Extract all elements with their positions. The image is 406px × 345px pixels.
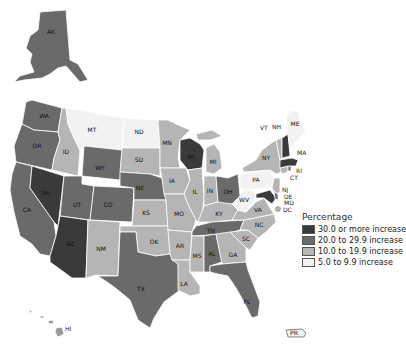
state-SD: SD <box>120 148 160 176</box>
svg-text:ME: ME <box>291 120 300 127</box>
state-DE: DE <box>274 192 293 200</box>
svg-text:GA: GA <box>229 251 239 258</box>
territory-PR: PR <box>286 329 306 337</box>
svg-text:FL: FL <box>244 298 251 305</box>
legend-swatch <box>302 225 315 234</box>
svg-text:MD: MD <box>284 199 294 206</box>
state-IN: IN <box>204 176 218 206</box>
svg-text:MI: MI <box>210 158 217 165</box>
svg-text:WV: WV <box>239 196 250 203</box>
legend-swatch <box>302 247 315 256</box>
svg-text:MN: MN <box>162 139 172 146</box>
state-AR: AR <box>168 230 192 260</box>
state-WI: WI <box>180 138 204 170</box>
svg-text:WY: WY <box>95 164 105 171</box>
state-UT: UT <box>60 176 94 220</box>
state-DC: DC <box>276 206 292 213</box>
state-MS: MS <box>190 236 204 272</box>
state-ND: ND <box>122 118 160 148</box>
legend-item: 30.0 or more increase <box>302 224 406 235</box>
svg-text:NH: NH <box>272 123 281 130</box>
state-HI: HI <box>29 310 72 337</box>
state-WY: WY <box>82 146 122 180</box>
svg-text:IA: IA <box>169 177 176 184</box>
svg-text:DC: DC <box>283 206 292 213</box>
svg-text:LA: LA <box>180 280 188 287</box>
svg-text:PR: PR <box>290 329 298 336</box>
state-PA: PA <box>240 170 274 190</box>
state-ME: ME <box>286 110 306 148</box>
state-KS: KS <box>132 200 168 226</box>
svg-text:IL: IL <box>192 188 198 195</box>
svg-text:VT: VT <box>260 124 268 131</box>
svg-text:CA: CA <box>23 206 32 213</box>
map-legend: Percentage 30.0 or more increase 20.0 to… <box>302 212 406 268</box>
state-NJ: NJ <box>272 178 288 194</box>
state-NM: NM <box>86 220 120 278</box>
svg-text:CT: CT <box>290 174 298 181</box>
legend-swatch <box>302 236 315 245</box>
svg-text:AL: AL <box>208 250 216 257</box>
svg-text:OR: OR <box>33 142 42 149</box>
svg-text:NY: NY <box>262 154 270 161</box>
svg-text:OH: OH <box>223 188 232 195</box>
svg-text:AZ: AZ <box>66 240 74 247</box>
svg-text:KS: KS <box>142 209 150 216</box>
svg-text:CO: CO <box>104 201 113 208</box>
legend-swatch <box>302 258 315 267</box>
svg-text:MT: MT <box>88 126 97 133</box>
svg-text:OK: OK <box>150 238 160 245</box>
svg-text:NV: NV <box>42 189 51 196</box>
svg-text:KY: KY <box>215 210 223 217</box>
svg-text:SD: SD <box>135 156 144 163</box>
svg-text:HI: HI <box>65 325 72 332</box>
svg-text:AK: AK <box>47 28 56 35</box>
svg-text:NM: NM <box>96 245 106 252</box>
state-AZ: AZ <box>50 216 88 278</box>
svg-text:TN: TN <box>206 227 215 234</box>
svg-text:ID: ID <box>63 148 70 155</box>
svg-text:DE: DE <box>284 193 293 200</box>
svg-text:MS: MS <box>193 252 202 259</box>
legend-title: Percentage <box>302 212 406 222</box>
state-AK: AK <box>14 10 88 82</box>
svg-text:AR: AR <box>176 242 184 249</box>
svg-text:SC: SC <box>242 235 250 242</box>
legend-item: 10.0 to 19.9 increase <box>302 246 406 257</box>
svg-text:NC: NC <box>255 221 264 228</box>
state-RI: RI <box>288 166 302 174</box>
svg-text:PA: PA <box>252 176 260 183</box>
legend-item: 5.0 to 9.9 increase <box>302 257 406 268</box>
svg-text:WI: WI <box>187 153 195 160</box>
svg-text:UT: UT <box>73 201 81 208</box>
svg-text:IN: IN <box>207 187 213 194</box>
svg-text:MO: MO <box>174 210 184 217</box>
svg-text:RI: RI <box>296 167 302 174</box>
svg-text:NE: NE <box>136 184 144 191</box>
svg-text:MA: MA <box>297 149 307 156</box>
svg-text:VA: VA <box>254 206 263 213</box>
svg-text:ND: ND <box>134 128 143 135</box>
legend-item: 20.0 to 29.9 increase <box>302 235 406 246</box>
svg-text:WA: WA <box>39 112 50 119</box>
svg-text:TX: TX <box>136 285 145 292</box>
state-NY: NY <box>242 140 282 174</box>
state-CO: CO <box>90 186 134 222</box>
state-FL: FL <box>210 262 260 318</box>
